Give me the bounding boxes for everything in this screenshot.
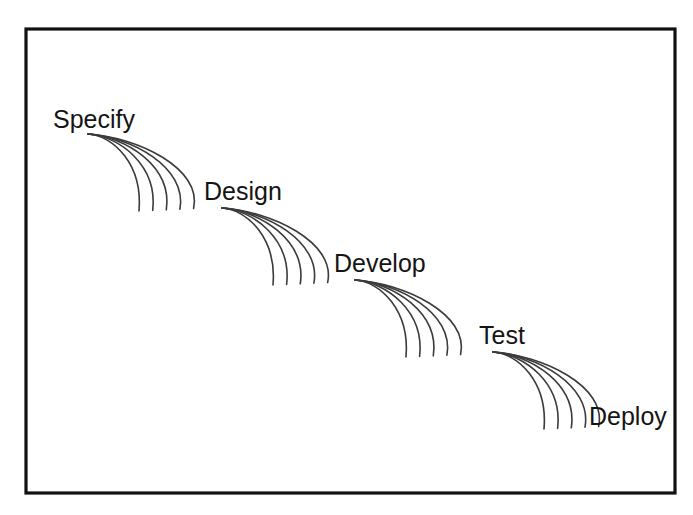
cascade-curve-develop-5: [355, 280, 461, 355]
stage-label-develop: Develop: [334, 249, 426, 277]
cascade-curve-design-2: [222, 208, 287, 284]
cascade-curve-test-5: [493, 352, 599, 427]
stage-label-specify: Specify: [53, 105, 135, 133]
stage-label-deploy: Deploy: [589, 402, 667, 430]
cascade-curve-design-5: [222, 208, 328, 283]
cascade-curve-test-2: [493, 352, 558, 428]
cascade-curve-develop-2: [355, 280, 420, 356]
waterfall-diagram: SpecifyDesignDevelopTestDeploy: [0, 0, 693, 515]
cascade-curve-test-3: [493, 352, 572, 428]
cascades-group: [88, 134, 599, 429]
waterfall-canvas: SpecifyDesignDevelopTestDeploy: [0, 0, 693, 515]
cascade-curve-design-3: [222, 208, 301, 284]
cascade-test-to-deploy: [493, 352, 599, 429]
cascade-design-to-develop: [222, 208, 328, 285]
stage-label-design: Design: [204, 177, 282, 205]
cascade-specify-to-design: [88, 134, 194, 211]
cascade-curve-develop-3: [355, 280, 434, 356]
stage-label-test: Test: [479, 321, 525, 349]
cascade-curve-specify-5: [88, 134, 194, 209]
cascade-curve-specify-3: [88, 134, 167, 210]
cascade-curve-specify-2: [88, 134, 153, 210]
cascade-develop-to-test: [355, 280, 461, 357]
